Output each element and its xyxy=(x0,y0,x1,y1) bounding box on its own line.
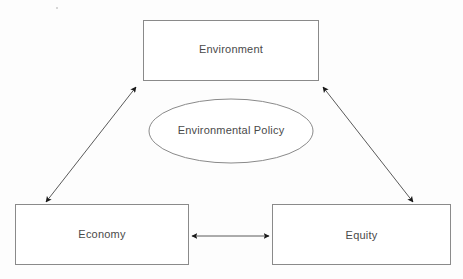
node-environmental-policy-label: Environmental Policy xyxy=(148,124,314,136)
connector-economy-environment xyxy=(46,87,136,202)
node-economy-label: Economy xyxy=(15,228,189,240)
connector-environment-equity xyxy=(323,87,413,202)
diagram-canvas: Environment Environmental Policy Economy… xyxy=(0,0,463,279)
node-environment-label: Environment xyxy=(143,43,319,55)
node-equity-label: Equity xyxy=(272,229,451,241)
scan-artifact-speck xyxy=(56,7,58,9)
